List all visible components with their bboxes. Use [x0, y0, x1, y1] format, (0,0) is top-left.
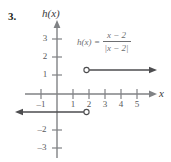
- y-axis-arrowhead: [54, 20, 61, 28]
- y-tick-label-1: 1: [38, 69, 52, 79]
- y-tick-label--3: –3: [33, 142, 51, 152]
- lower-ray-open-endpoint: [84, 109, 89, 114]
- graph-svg: [0, 0, 171, 162]
- x-tick-label-4: 4: [114, 99, 128, 109]
- x-axis-arrowhead: [149, 91, 157, 98]
- x-tick-label-1: 1: [66, 99, 80, 109]
- y-tick-label-2: 2: [38, 51, 52, 61]
- x-tick-label--1: –1: [34, 99, 48, 109]
- y-tick-label-3: 3: [38, 33, 52, 43]
- upper-ray-arrowhead: [149, 67, 157, 73]
- upper-ray-open-endpoint: [84, 67, 89, 72]
- y-tick-label--2: –2: [33, 124, 51, 134]
- lower-ray-arrowhead: [15, 109, 23, 115]
- x-tick-label-5: 5: [130, 99, 144, 109]
- curve-lower-branch: [15, 109, 89, 115]
- x-tick-label-3: 3: [98, 99, 112, 109]
- x-tick-label-2: 2: [82, 99, 96, 109]
- curve-upper-branch: [84, 67, 157, 73]
